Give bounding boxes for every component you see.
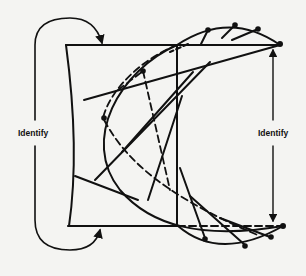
dot-top-4 (277, 41, 283, 47)
dot-bottom-1 (202, 236, 208, 242)
dot-interior-1 (140, 68, 146, 74)
left-loop-lower (35, 146, 100, 250)
identify-label-right: Identify (258, 128, 288, 138)
dot-bottom-2 (242, 243, 248, 249)
identify-label-left: Identify (18, 128, 48, 138)
diagram-canvas (0, 0, 306, 276)
chord-3 (75, 176, 138, 200)
dot-interior-2 (101, 115, 107, 121)
dot-bottom-4 (280, 223, 286, 229)
dot-top-3 (255, 26, 261, 32)
chord-2 (95, 62, 210, 180)
dot-bottom-3 (268, 234, 274, 240)
dot-top-2 (232, 22, 238, 28)
dot-top-1 (205, 27, 211, 33)
chord-5 (170, 30, 208, 190)
left-arc (66, 45, 74, 226)
tick-3 (232, 29, 258, 40)
chord-9 (220, 218, 270, 237)
